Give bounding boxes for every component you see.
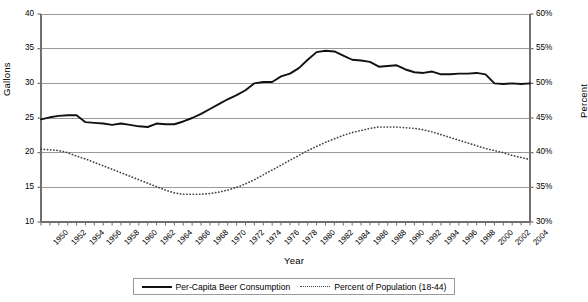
legend-swatch-dotted-line-icon: [300, 286, 330, 287]
y-axis-right-title: Percent: [578, 84, 588, 118]
series-line-percent-population: [41, 127, 530, 194]
legend-item-percent-population: Percent of Population (18-44): [300, 282, 446, 292]
y-axis-left-tick-label: 40: [10, 9, 34, 18]
chart-container: Gallons Percent Year 10152025303540 30%3…: [0, 0, 588, 302]
y-axis-right-tick-label: 60%: [536, 9, 566, 18]
chart-legend: Per-Capita Beer Consumption Percent of P…: [133, 278, 455, 295]
legend-swatch-solid-line-icon: [142, 286, 172, 288]
y-axis-right-tick-label: 40%: [536, 147, 566, 156]
y-axis-left-tick-label: 15: [10, 182, 34, 191]
x-axis-title: Year: [0, 255, 588, 266]
y-axis-left-tick-label: 30: [10, 78, 34, 87]
y-axis-right-tick-label: 50%: [536, 78, 566, 87]
y-axis-right-tick-label: 35%: [536, 182, 566, 191]
legend-item-beer-consumption: Per-Capita Beer Consumption: [142, 282, 291, 292]
y-axis-right-tick-label: 55%: [536, 43, 566, 52]
series-line-beer-consumption: [41, 51, 530, 127]
legend-label-percent-population: Percent of Population (18-44): [334, 282, 446, 292]
y-axis-left-tick-label: 10: [10, 217, 34, 226]
y-axis-right-tick-label: 30%: [536, 217, 566, 226]
y-axis-left-tick-label: 25: [10, 113, 34, 122]
legend-label-beer-consumption: Per-Capita Beer Consumption: [176, 282, 291, 292]
y-axis-right-tick-label: 45%: [536, 113, 566, 122]
y-axis-left-tick-label: 35: [10, 43, 34, 52]
y-axis-left-tick-label: 20: [10, 147, 34, 156]
